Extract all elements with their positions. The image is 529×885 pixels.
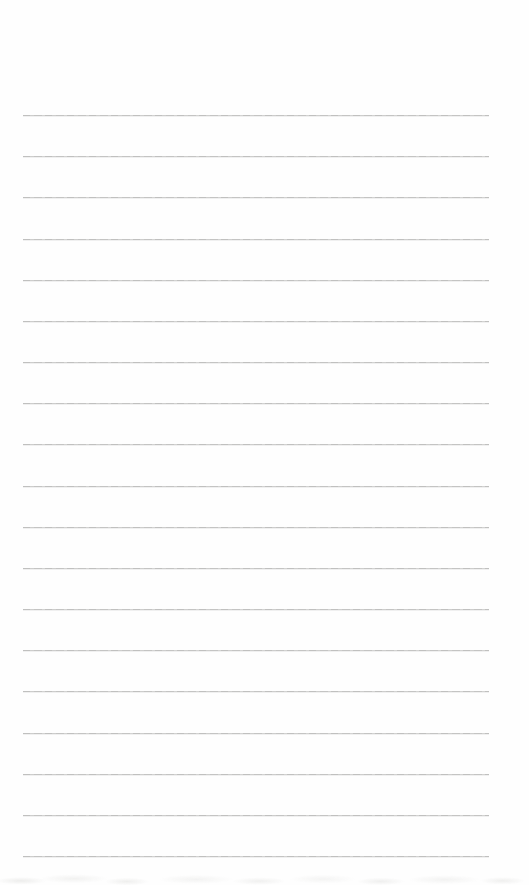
ruled-line: [23, 527, 489, 528]
bottom-edge-texture: [0, 871, 529, 885]
ruled-line: [23, 774, 489, 775]
ruled-line: [23, 568, 489, 569]
ruled-line: [23, 815, 489, 816]
ruled-line: [23, 609, 489, 610]
ruled-line: [23, 362, 489, 363]
ruled-line: [23, 444, 489, 445]
ruled-line: [23, 197, 489, 198]
ruled-line: [23, 403, 489, 404]
ruled-line: [23, 321, 489, 322]
ruled-line: [23, 856, 489, 857]
ruled-line: [23, 156, 489, 157]
ruled-line: [23, 733, 489, 734]
ruled-line: [23, 115, 489, 116]
lined-paper-page: [0, 0, 529, 885]
ruled-line: [23, 486, 489, 487]
ruled-line: [23, 691, 489, 692]
ruled-line: [23, 239, 489, 240]
ruled-line: [23, 650, 489, 651]
ruled-line: [23, 280, 489, 281]
